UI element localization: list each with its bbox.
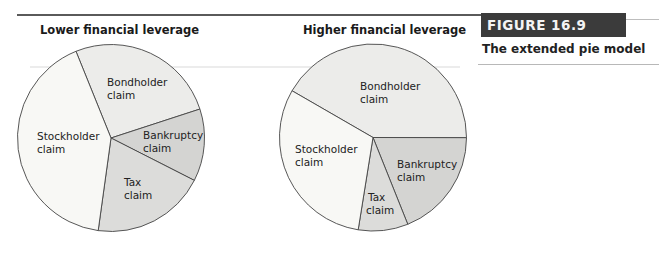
svg-text:Stockholder: Stockholder: [295, 143, 358, 155]
svg-text:claim: claim: [366, 204, 394, 216]
pie-chart-higher-leverage: Bondholder claim Bankruptcy claim Tax cl…: [0, 0, 659, 256]
svg-text:Bankruptcy: Bankruptcy: [397, 158, 457, 170]
svg-text:claim: claim: [360, 93, 388, 105]
svg-text:claim: claim: [397, 171, 425, 183]
svg-text:Tax: Tax: [367, 191, 385, 203]
svg-text:claim: claim: [295, 156, 323, 168]
svg-text:Bondholder: Bondholder: [360, 80, 421, 92]
